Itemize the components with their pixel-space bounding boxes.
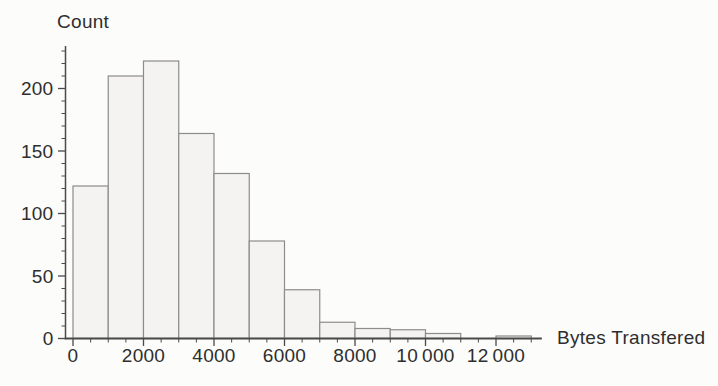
y-tick-label: 0: [43, 328, 54, 349]
x-tick-label: 12 000: [467, 345, 525, 366]
histogram-bar: [179, 134, 214, 339]
histogram-bar: [144, 61, 179, 339]
histogram-figure: 0501001502000200040006000800010 00012 00…: [0, 0, 718, 386]
histogram-bar: [249, 241, 284, 339]
x-tick-label: 0: [68, 345, 79, 366]
histogram-bar: [73, 186, 108, 339]
x-tick-label: 6000: [263, 345, 306, 366]
histogram-bar: [320, 322, 355, 338]
y-tick-label: 150: [21, 141, 54, 162]
x-tick-label: 8000: [333, 345, 376, 366]
x-tick-label: 10 000: [396, 345, 454, 366]
x-axis-title: Bytes Transfered: [557, 328, 705, 349]
y-tick-label: 50: [32, 266, 54, 287]
histogram-bar: [390, 330, 425, 339]
histogram-bar: [108, 76, 143, 339]
histogram-bar: [285, 290, 320, 339]
y-tick-label: 100: [21, 203, 54, 224]
x-tick-label: 4000: [192, 345, 235, 366]
y-axis-title: Count: [57, 12, 109, 33]
x-tick-label: 2000: [122, 345, 165, 366]
histogram-bar: [355, 329, 390, 339]
histogram-bar: [214, 174, 249, 339]
y-tick-label: 200: [21, 78, 54, 99]
